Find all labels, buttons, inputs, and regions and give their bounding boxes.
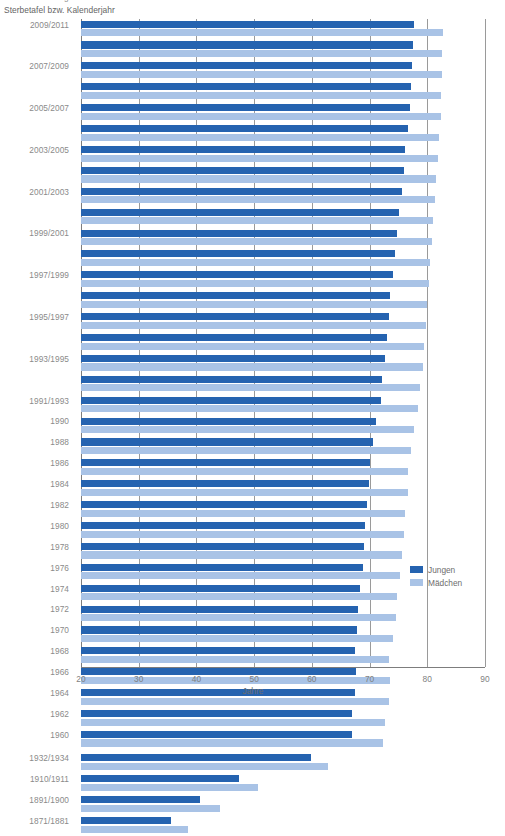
bar-boys bbox=[81, 397, 381, 404]
bar-boys bbox=[81, 376, 382, 383]
category-row: 2001/2003 bbox=[0, 186, 76, 207]
bar-boys bbox=[81, 710, 352, 717]
bar-row-group bbox=[81, 499, 485, 520]
bar-row-group bbox=[81, 165, 485, 186]
bar-row-group bbox=[81, 207, 485, 228]
category-label: 2001/2003 bbox=[29, 187, 69, 197]
category-row: 1980 bbox=[0, 520, 76, 541]
bar-row-group bbox=[81, 103, 485, 124]
bar-girls bbox=[81, 531, 404, 538]
bar-girls bbox=[81, 698, 389, 705]
bar-boys bbox=[81, 21, 414, 28]
category-row: 1891/1900 bbox=[0, 794, 76, 815]
legend-label: Jungen bbox=[428, 565, 455, 575]
bar-girls bbox=[81, 134, 439, 141]
bar-boys bbox=[81, 146, 405, 153]
category-label: 1978 bbox=[50, 542, 69, 552]
bar-boys bbox=[81, 480, 369, 487]
bar-boys bbox=[81, 501, 367, 508]
bar-row-group bbox=[81, 311, 485, 332]
category-row bbox=[0, 82, 76, 103]
category-row bbox=[0, 249, 76, 270]
bar-boys bbox=[81, 585, 360, 592]
bar-boys bbox=[81, 564, 363, 571]
bar-girls bbox=[81, 739, 383, 746]
category-label: 1871/1881 bbox=[29, 816, 69, 826]
category-row: 1988 bbox=[0, 437, 76, 458]
category-label: 1999/2001 bbox=[29, 228, 69, 238]
bar-girls bbox=[81, 71, 442, 78]
category-label: 1964 bbox=[50, 688, 69, 698]
category-row: 1970 bbox=[0, 625, 76, 646]
bar-boys bbox=[81, 438, 373, 445]
bar-boys bbox=[81, 754, 311, 761]
bar-row-group bbox=[81, 82, 485, 103]
category-label: 1962 bbox=[50, 709, 69, 719]
bar-girls bbox=[81, 826, 188, 833]
category-row: 2003/2005 bbox=[0, 144, 76, 165]
x-tick-label: 30 bbox=[134, 674, 143, 684]
bar-boys bbox=[81, 104, 410, 111]
category-row: 2007/2009 bbox=[0, 61, 76, 82]
bar-boys bbox=[81, 334, 387, 341]
bar-boys bbox=[81, 689, 355, 696]
legend-item[interactable]: Mädchen bbox=[410, 577, 462, 588]
bar-boys bbox=[81, 459, 370, 466]
x-tick-label: 20 bbox=[76, 674, 85, 684]
bar-boys bbox=[81, 418, 376, 425]
x-axis-title: Jahre bbox=[243, 686, 264, 696]
category-row: 1982 bbox=[0, 499, 76, 520]
bar-boys bbox=[81, 817, 171, 824]
legend-swatch-icon bbox=[410, 566, 423, 573]
bar-boys bbox=[81, 355, 385, 362]
category-label: 1993/1995 bbox=[29, 354, 69, 364]
chart-subtitle: Sterbetafel bzw. Kalenderjahr bbox=[4, 5, 115, 15]
category-label: 1972 bbox=[50, 604, 69, 614]
category-row: 2005/2007 bbox=[0, 103, 76, 124]
category-label: 2005/2007 bbox=[29, 103, 69, 113]
bar-row-group bbox=[81, 228, 485, 249]
bar-row-group bbox=[81, 729, 485, 750]
category-row: 1993/1995 bbox=[0, 353, 76, 374]
bar-girls bbox=[81, 805, 220, 812]
category-row bbox=[0, 40, 76, 61]
bar-girls bbox=[81, 426, 414, 433]
category-row bbox=[0, 165, 76, 186]
bar-boys bbox=[81, 292, 390, 299]
bar-row-group bbox=[81, 19, 485, 40]
category-row bbox=[0, 123, 76, 144]
bar-girls bbox=[81, 238, 432, 245]
bar-row-group bbox=[81, 374, 485, 395]
bar-row-group bbox=[81, 774, 485, 795]
category-label: 1910/1911 bbox=[30, 774, 69, 784]
bar-boys bbox=[81, 775, 239, 782]
bar-row-group bbox=[81, 437, 485, 458]
legend-item[interactable]: Jungen bbox=[410, 564, 462, 575]
bar-row-group bbox=[81, 144, 485, 165]
bar-row-group bbox=[81, 40, 485, 61]
bar-row-group bbox=[81, 249, 485, 270]
bar-girls bbox=[81, 614, 396, 621]
bar-boys bbox=[81, 188, 402, 195]
bar-boys bbox=[81, 167, 404, 174]
bar-girls bbox=[81, 763, 328, 770]
bar-girls bbox=[81, 635, 393, 642]
bar-boys bbox=[81, 543, 364, 550]
category-row: 1974 bbox=[0, 583, 76, 604]
category-label: 1990 bbox=[50, 416, 69, 426]
bar-row-group bbox=[81, 688, 485, 709]
bar-girls bbox=[81, 719, 385, 726]
bar-boys bbox=[81, 626, 357, 633]
bar-girls bbox=[81, 92, 441, 99]
x-axis-line bbox=[81, 667, 485, 668]
bar-girls bbox=[81, 784, 258, 791]
legend-label: Mädchen bbox=[428, 578, 462, 588]
legend-swatch-icon bbox=[410, 579, 423, 586]
category-label: 1932/1934 bbox=[29, 753, 69, 763]
category-row: 1999/2001 bbox=[0, 228, 76, 249]
bar-boys bbox=[81, 209, 399, 216]
category-label: 2007/2009 bbox=[29, 61, 69, 71]
bar-girls bbox=[81, 468, 408, 475]
bar-girls bbox=[81, 259, 430, 266]
